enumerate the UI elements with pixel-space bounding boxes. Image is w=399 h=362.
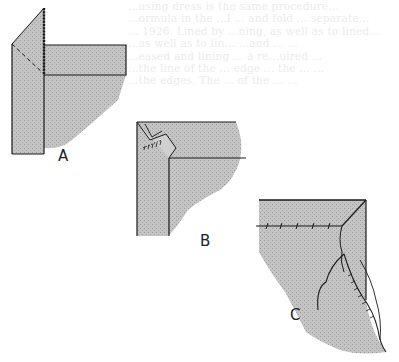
figure-label-a: A (58, 147, 68, 165)
figure-label-c: C (290, 306, 300, 324)
figure-c (256, 200, 386, 354)
figure-label-b: B (200, 232, 210, 250)
figure-b (137, 122, 246, 236)
figure-a (12, 8, 126, 154)
diagram-canvas (0, 0, 399, 362)
